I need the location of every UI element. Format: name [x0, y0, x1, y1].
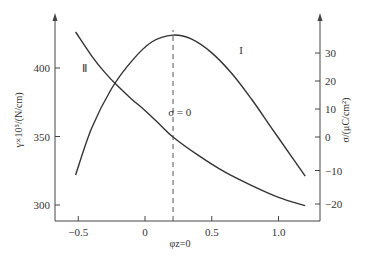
electrocapillary-chart: 300350400 −20−100102030 −0.500.51.0 γ×10… [0, 0, 371, 259]
x-tick-label: −0.5 [68, 226, 88, 238]
x-tick-label: 1.0 [272, 226, 286, 238]
y-tick-label: 300 [34, 199, 51, 211]
y2-tick-label: 10 [325, 103, 337, 115]
label-sigma-zero: σ = 0 [168, 106, 192, 118]
y2-tick-label: 20 [325, 75, 337, 87]
annotations: IⅡσ = 0 [82, 44, 243, 118]
y2-tick-label: 30 [325, 47, 337, 59]
y2-axis-title: σ/(μC/cm²) [340, 98, 352, 143]
x-axis-title: φz=0 [170, 238, 191, 249]
y-tick-label: 400 [34, 62, 51, 74]
y-axis-arrow-icon [53, 13, 58, 21]
x-axis: −0.500.51.0 [55, 216, 320, 238]
y-axis-title: γ×10⁵/(N/cm) [13, 92, 25, 148]
y2-tick-label: −10 [325, 165, 343, 177]
y2-tick-label: −20 [325, 198, 343, 210]
left-y-axis: 300350400 [34, 13, 61, 221]
y2-axis-arrow-icon [318, 13, 323, 21]
curve-II [76, 32, 306, 206]
label-curve-II: Ⅱ [82, 62, 87, 74]
right-y-axis: −20−100102030 [315, 13, 343, 221]
x-tick-label: 0 [142, 226, 148, 238]
y2-tick-label: 0 [325, 131, 331, 143]
x-tick-label: 0.5 [205, 226, 219, 238]
label-curve-I: I [239, 44, 243, 56]
y-tick-label: 350 [34, 131, 51, 143]
